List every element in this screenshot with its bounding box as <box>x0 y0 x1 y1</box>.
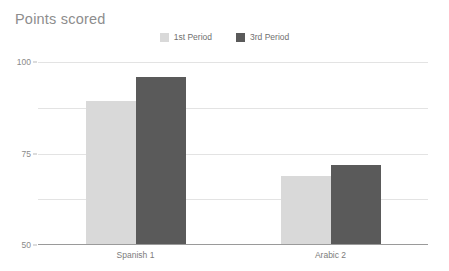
legend-swatch-1st-period <box>160 33 169 42</box>
bar[interactable] <box>86 101 136 244</box>
y-axis-tick-mark <box>33 153 37 154</box>
bar[interactable] <box>331 165 381 244</box>
x-axis-category-label: Arabic 2 <box>315 250 346 260</box>
chart-legend: 1st Period 3rd Period <box>0 32 449 42</box>
gridline: 0 <box>38 245 428 246</box>
x-axis-line <box>38 244 428 245</box>
legend-item-1st-period[interactable]: 1st Period <box>160 32 212 42</box>
legend-swatch-3rd-period <box>236 33 245 42</box>
gridline: 100 <box>38 62 428 63</box>
y-axis-tick-label: 50 <box>22 240 31 250</box>
x-axis-category-label: Spanish 1 <box>117 250 155 260</box>
y-axis-tick-label: 100 <box>17 57 31 67</box>
chart-title: Points scored <box>15 11 105 27</box>
y-axis-tick-mark <box>33 62 37 63</box>
legend-label-3rd-period: 3rd Period <box>250 32 289 42</box>
legend-item-3rd-period[interactable]: 3rd Period <box>236 32 289 42</box>
y-axis-tick-mark <box>33 245 37 246</box>
legend-label-1st-period: 1st Period <box>174 32 212 42</box>
bar[interactable] <box>281 176 331 244</box>
plot-area: 0255075100 <box>38 62 428 245</box>
bar-chart: Points scored 1st Period 3rd Period 0255… <box>0 0 449 271</box>
bar[interactable] <box>136 77 186 244</box>
y-axis-tick-label: 75 <box>22 149 31 159</box>
